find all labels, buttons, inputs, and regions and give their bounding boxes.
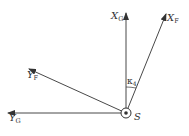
label-xf: XF xyxy=(166,12,179,25)
label-xg: XG xyxy=(110,10,123,23)
angle-arc xyxy=(126,87,136,88)
label-origin: S xyxy=(134,111,141,122)
coordinate-diagram: XG XF YF YG κ4 S xyxy=(0,0,189,136)
axis-yf xyxy=(29,69,126,113)
label-yg: YG xyxy=(9,112,21,125)
label-kappa: κ4 xyxy=(127,76,137,87)
diagram-canvas: XG XF YF YG κ4 S xyxy=(0,0,189,136)
origin-dot xyxy=(124,111,128,115)
axis-xf xyxy=(126,14,166,113)
label-yf: YF xyxy=(27,69,39,82)
